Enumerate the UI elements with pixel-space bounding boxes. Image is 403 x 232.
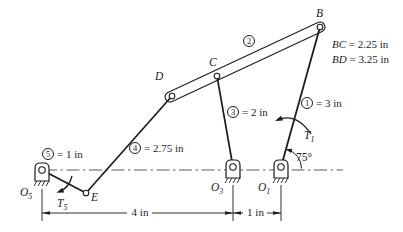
- joint-E: [83, 190, 89, 196]
- joint-C: [214, 73, 220, 79]
- joint-label-E: E: [91, 191, 98, 203]
- pivot-label-O1: O1: [258, 181, 270, 193]
- angle-label: 75°: [296, 151, 312, 163]
- ground-pivot-O5: [34, 163, 49, 186]
- pivot-label-O5: O5: [20, 186, 32, 198]
- link-5-number-icon: 5: [42, 148, 54, 160]
- ground-pivot-O3: [225, 160, 240, 183]
- linkage-mechanism-figure: B C D E O5 O3 O1 T1 T5 75° 1 = 3 in 2 3 …: [0, 0, 403, 232]
- torque-label-T1: T1: [304, 129, 314, 141]
- joint-label-C: C: [209, 56, 217, 68]
- note-BD: BD = 3.25 in: [332, 53, 389, 65]
- joint-D: [169, 93, 175, 99]
- dimension-4in: 4 in: [127, 206, 153, 218]
- link-3-number-icon: 3: [227, 106, 239, 118]
- link-1-length-label: 1 = 3 in: [301, 97, 342, 109]
- joint-label-D: D: [155, 70, 163, 82]
- ground-pivot-O1: [273, 160, 288, 183]
- link-2-number-icon: 2: [243, 35, 255, 47]
- torque-label-T5: T5: [57, 197, 67, 209]
- joint-B: [317, 24, 323, 30]
- link-4-number-icon: 4: [129, 142, 141, 154]
- link-3-line: [217, 76, 233, 167]
- joint-label-B: B: [316, 7, 323, 19]
- note-BC: BC = 2.25 in: [332, 38, 388, 50]
- link-3-length-label: 3 = 2 in: [227, 106, 268, 118]
- link-5-length-label: 5 = 1 in: [42, 148, 83, 160]
- link-1-number-icon: 1: [301, 97, 313, 109]
- pivot-label-O3: O3: [211, 181, 223, 193]
- dimension-1in: 1 in: [243, 206, 268, 218]
- link-2-number-label: 2: [243, 35, 255, 47]
- link-4-length-label: 4 = 2.75 in: [129, 142, 184, 154]
